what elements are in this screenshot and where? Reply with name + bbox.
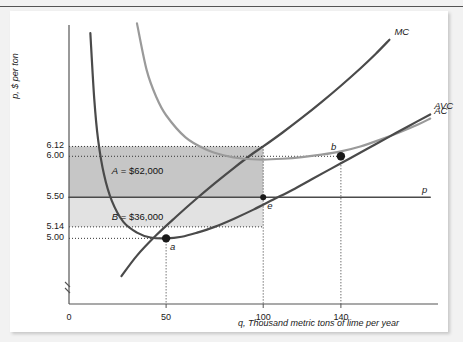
point-marker-b bbox=[337, 152, 345, 160]
area-label-a-value: = $62,000 bbox=[121, 165, 164, 176]
y-tick-label-550: 5.50 bbox=[38, 191, 64, 201]
area-label-b-symbol: B bbox=[112, 211, 118, 222]
point-label-b: b bbox=[331, 141, 336, 152]
area-label-b-value: = $36,000 bbox=[121, 211, 164, 222]
top-divider-rule bbox=[0, 6, 463, 7]
shaded-area-B bbox=[69, 197, 263, 227]
point-marker-e bbox=[260, 194, 266, 200]
y-tick-label-600: 6.00 bbox=[38, 150, 64, 160]
figure-root: p, $ per ton q, Thousand metric tons of … bbox=[0, 0, 463, 342]
y-tick-label-514: 5.14 bbox=[38, 221, 64, 231]
y-axis-title: p, $ per ton bbox=[10, 53, 20, 99]
x-tick-label-100: 100 bbox=[251, 312, 275, 322]
y-tick-label-612: 6.12 bbox=[38, 140, 64, 150]
x-tick-label-140: 140 bbox=[329, 312, 353, 322]
curve-label-mc: MC bbox=[394, 26, 409, 37]
area-label-a-profit: A = $62,000 bbox=[112, 165, 164, 176]
point-marker-a bbox=[162, 234, 170, 242]
curve-label-price-line: p bbox=[422, 184, 427, 195]
point-label-a: a bbox=[170, 241, 175, 252]
y-tick-label-500: 5.00 bbox=[38, 232, 64, 242]
plot-canvas bbox=[10, 11, 448, 332]
area-label-a-symbol: A bbox=[112, 165, 118, 176]
x-tick-label-0: 0 bbox=[57, 312, 81, 322]
x-tick-label-50: 50 bbox=[154, 312, 178, 322]
curve-label-avc: AVC bbox=[434, 100, 453, 111]
shaded-area-A bbox=[69, 146, 263, 197]
figure-panel: p, $ per ton q, Thousand metric tons of … bbox=[10, 11, 448, 332]
area-label-b-variable-cost: B = $36,000 bbox=[112, 211, 164, 222]
point-label-e: e bbox=[267, 200, 272, 211]
